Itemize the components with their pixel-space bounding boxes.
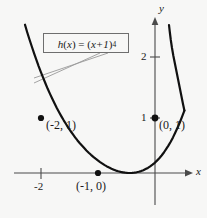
y-tick-label-2: 2	[141, 51, 147, 62]
leader-lines	[34, 53, 108, 83]
marker-minus2-1	[38, 115, 44, 121]
point-label-0-1: (0, 1)	[159, 119, 185, 131]
equation-exponent: 4	[112, 40, 116, 49]
x-axis-label: x	[196, 166, 201, 177]
marker-0-1	[152, 115, 159, 122]
graph-figure: h(x) = (x+1)4 x y -2 1 2 (-2, 1) (-1, 0)…	[0, 0, 207, 218]
y-axis	[152, 17, 159, 205]
equation-inner-expression: x+1	[91, 38, 109, 50]
equation-label-box: h(x) = (x+1)4	[43, 33, 129, 53]
y-axis-label: y	[159, 3, 164, 14]
x-tick-label-minus2: -2	[34, 181, 43, 192]
marker-minus1-0	[95, 170, 101, 176]
point-label-minus2-1: (-2, 1)	[46, 119, 76, 131]
equation-close-equals: ) = (	[72, 38, 91, 50]
point-label-minus1-0: (-1, 0)	[76, 180, 106, 192]
equation-label-text: h(x) = (x+1)4	[44, 34, 130, 54]
y-tick-label-1: 1	[141, 112, 147, 123]
